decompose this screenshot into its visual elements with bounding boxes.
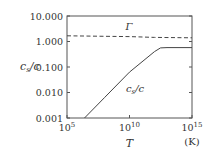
x-tick-label: 1015 [181, 121, 202, 133]
x-axis-label: T [126, 137, 135, 150]
y-tick-label: 10.000 [30, 11, 63, 22]
x-tick-label: 105 [59, 121, 76, 133]
y-axis-label: cs/c [20, 60, 40, 74]
chart: 10.0001.0000.1000.0100.00110510101015cs/… [0, 0, 209, 157]
x-axis-unit: (K) [184, 136, 199, 147]
y-tick-label: 0.100 [36, 62, 63, 73]
x-tick-label: 1010 [119, 121, 140, 133]
gamma-label: Γ [125, 21, 134, 32]
y-tick-label: 0.010 [36, 87, 63, 98]
gamma-series-line [67, 36, 192, 38]
y-tick-label: 1.000 [36, 36, 63, 47]
sound-speed-label: cs/c [126, 83, 145, 96]
